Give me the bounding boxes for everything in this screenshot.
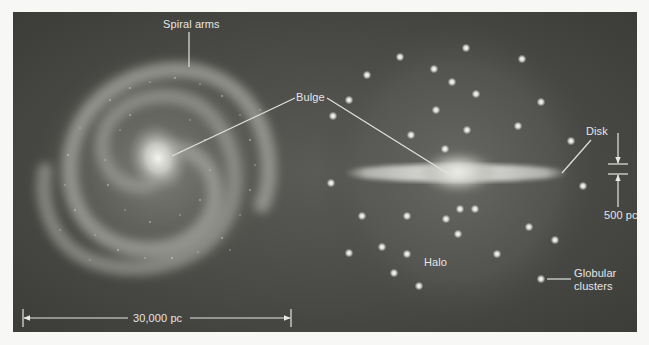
scale-30000pc-label: 30,000 pc xyxy=(133,312,182,325)
globular-cluster xyxy=(454,230,463,239)
diagram-canvas xyxy=(0,0,649,345)
globular-cluster xyxy=(537,98,546,107)
edge-on-bulge xyxy=(418,150,498,194)
globular-cluster xyxy=(390,269,399,278)
milky-way-structure-diagram: Spiral arms Bulge Disk Halo Globular clu… xyxy=(0,0,649,345)
globular-cluster xyxy=(493,250,502,259)
globular-cluster xyxy=(403,250,412,259)
globular-cluster xyxy=(463,126,472,135)
globular-cluster xyxy=(442,215,451,224)
halo-label: Halo xyxy=(424,256,447,269)
globular-cluster xyxy=(403,212,412,221)
globular-cluster xyxy=(462,44,471,53)
globular-cluster xyxy=(430,65,439,74)
scale-500pc-label: 500 pc xyxy=(604,209,638,222)
face-on-galaxy xyxy=(38,48,278,288)
globular-cluster xyxy=(396,53,405,62)
globular-cluster xyxy=(518,55,527,64)
globular-cluster xyxy=(441,145,450,154)
globular-cluster xyxy=(407,131,416,140)
bulge-label: Bulge xyxy=(296,91,325,104)
globular-cluster xyxy=(537,275,546,284)
globular-cluster xyxy=(472,90,481,99)
globular-cluster xyxy=(514,122,523,131)
globular-cluster xyxy=(415,282,424,291)
globular-cluster xyxy=(525,223,534,232)
globular-cluster xyxy=(358,212,367,221)
globular-clusters-label-line1: Globular xyxy=(574,267,616,280)
globular-cluster xyxy=(471,205,480,214)
globular-cluster xyxy=(327,179,336,188)
globular-cluster xyxy=(551,236,560,245)
globular-cluster xyxy=(345,96,354,105)
globular-cluster xyxy=(456,205,465,214)
globular-cluster xyxy=(363,71,372,80)
disk-label: Disk xyxy=(586,125,608,138)
globular-cluster xyxy=(579,182,588,191)
spiral-arms-label: Spiral arms xyxy=(163,18,220,31)
globular-clusters-label-line2: clusters xyxy=(574,280,613,293)
globular-cluster xyxy=(329,112,338,121)
globular-cluster xyxy=(567,137,576,146)
globular-cluster xyxy=(432,106,441,115)
globular-cluster xyxy=(378,243,387,252)
edge-on-galaxy xyxy=(318,22,598,322)
globular-cluster xyxy=(345,249,354,258)
globular-cluster xyxy=(448,78,457,87)
